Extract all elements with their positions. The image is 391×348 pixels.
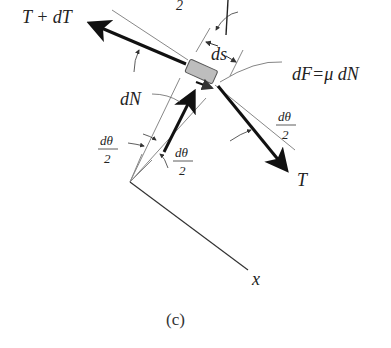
label-normal-force: dN <box>120 89 142 109</box>
svg-text:dθ: dθ <box>175 145 189 160</box>
normal-leader <box>152 94 180 102</box>
label-ds: ds <box>211 44 227 64</box>
friction-leader <box>220 62 282 82</box>
half-angle-middle: dθ 2 <box>173 145 193 178</box>
label-friction: dF=μ dN <box>292 64 360 84</box>
half-angle-left: dθ 2 <box>98 133 118 166</box>
tension-upper-arrow <box>92 24 186 64</box>
figure-caption: (c) <box>166 310 185 329</box>
belt-friction-diagram: T + dT 2 ds dF=μ dN dN T x dθ 2 dθ 2 dθ … <box>0 0 391 348</box>
label-tension-lower: T <box>297 170 309 190</box>
label-top-partial: 2 <box>176 0 183 13</box>
angle-arrow-mid <box>160 154 168 168</box>
label-tension-upper: T + dT <box>22 7 74 27</box>
angle-arrow-top-lower <box>134 50 139 72</box>
angle-arrow-left-a <box>128 143 144 146</box>
angle-arrow-left-b <box>143 134 156 140</box>
radial-line-2 <box>130 98 206 182</box>
ds-dim-arrow-right <box>226 56 236 62</box>
tension-lower-arrow <box>218 86 285 168</box>
radial-line-3 <box>130 154 142 182</box>
svg-text:2: 2 <box>179 163 186 178</box>
label-axis-x: x <box>251 269 260 289</box>
angle-arrow-right <box>230 130 251 141</box>
x-axis-line <box>130 182 248 270</box>
svg-text:2: 2 <box>104 151 111 166</box>
ds-tick-left <box>196 28 210 52</box>
tangent-line-upper <box>112 10 188 60</box>
svg-text:dθ: dθ <box>278 109 292 124</box>
radial-line-4 <box>130 160 152 182</box>
svg-text:2: 2 <box>282 127 289 142</box>
ds-tick-right <box>230 50 243 76</box>
svg-text:dθ: dθ <box>100 133 114 148</box>
